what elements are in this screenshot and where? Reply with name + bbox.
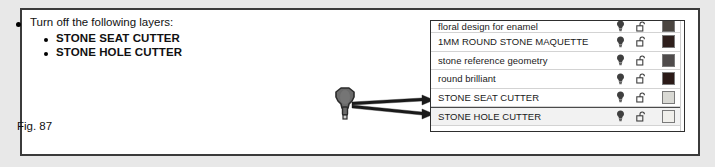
layer-name-label: round brilliant — [431, 73, 610, 84]
open-padlock-icon[interactable] — [630, 92, 652, 103]
layer-row[interactable]: 1MM ROUND STONE MAQUETTE — [431, 33, 684, 52]
lightbulb-icon[interactable] — [610, 73, 630, 85]
layer-row[interactable]: floral design for enamel — [431, 21, 684, 33]
bullet-dot-icon — [44, 52, 48, 56]
instruction-item-row: STONE HOLE CUTTER — [44, 47, 306, 59]
layer-row[interactable]: STONE HOLE CUTTER — [431, 107, 684, 126]
layer-color-chip[interactable] — [662, 54, 675, 67]
layer-color-chip[interactable] — [662, 35, 675, 48]
figure-caption: Fig. 87 — [17, 120, 52, 132]
instruction-list: Turn off the following layers: STONE SEA… — [16, 17, 306, 62]
layer-row[interactable]: stone reference geometry — [431, 52, 684, 71]
open-padlock-icon[interactable] — [630, 73, 652, 84]
open-padlock-icon[interactable] — [630, 111, 652, 122]
layer-color-chip[interactable] — [662, 20, 675, 32]
lightbulb-icon[interactable] — [610, 20, 630, 32]
layer-name-label: STONE SEAT CUTTER — [431, 92, 610, 103]
bullet-dot-icon — [44, 38, 48, 42]
lightbulb-icon[interactable] — [610, 91, 630, 103]
callout-arrows — [350, 88, 440, 124]
layer-panel[interactable]: floral design for enamel1MM ROUND STONE … — [430, 20, 685, 132]
layer-color-chip[interactable] — [662, 110, 675, 123]
instruction-heading: Turn off the following layers: — [30, 17, 173, 29]
instruction-heading-row: Turn off the following layers: — [16, 17, 306, 29]
open-padlock-icon[interactable] — [630, 36, 652, 47]
layer-color-chip[interactable] — [662, 72, 675, 85]
open-padlock-icon[interactable] — [630, 21, 652, 32]
layer-row[interactable]: round brilliant — [431, 70, 684, 89]
layer-name-label: floral design for enamel — [431, 21, 610, 32]
instruction-item-stone-seat-cutter: STONE SEAT CUTTER — [56, 33, 180, 45]
layer-row[interactable]: STONE SEAT CUTTER — [431, 89, 684, 108]
layer-name-label: STONE HOLE CUTTER — [431, 111, 610, 122]
open-padlock-icon[interactable] — [630, 55, 652, 66]
layer-name-label: 1MM ROUND STONE MAQUETTE — [431, 36, 610, 47]
instruction-item-stone-hole-cutter: STONE HOLE CUTTER — [56, 47, 182, 59]
lightbulb-icon[interactable] — [610, 54, 630, 66]
panel-scrollbar[interactable] — [680, 21, 684, 131]
lightbulb-icon[interactable] — [610, 110, 630, 122]
layer-color-chip[interactable] — [662, 91, 675, 104]
instruction-item-row: STONE SEAT CUTTER — [44, 33, 306, 45]
layer-name-label: stone reference geometry — [431, 55, 610, 66]
bullet-dot-icon — [16, 22, 21, 27]
lightbulb-icon[interactable] — [610, 36, 630, 48]
